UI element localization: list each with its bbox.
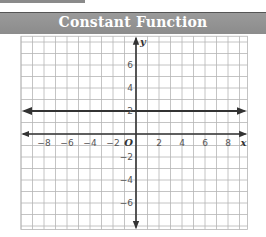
- x-tick-label: 4: [179, 138, 185, 148]
- y-tick-label: 2: [127, 106, 133, 116]
- y-tick-label: 6: [127, 60, 133, 70]
- x-tick-label: 6: [202, 138, 208, 148]
- grid-lines: [21, 36, 248, 229]
- x-axis-label: x: [240, 137, 248, 148]
- coordinate-plane: −8−6−4−22468642−2−4−6Oxy: [0, 0, 266, 237]
- x-tick-label: −4: [83, 138, 97, 148]
- x-tick-label: −6: [60, 138, 74, 148]
- x-tick-label: 2: [156, 138, 162, 148]
- y-tick-label: −6: [120, 198, 134, 208]
- x-tick-label: 8: [225, 138, 231, 148]
- y-tick-label: −2: [120, 152, 133, 162]
- y-tick-label: −4: [120, 175, 134, 185]
- y-axis-label: y: [139, 36, 147, 47]
- x-tick-label: −2: [106, 138, 119, 148]
- axes: [23, 38, 246, 227]
- x-tick-label: −8: [37, 138, 51, 148]
- y-tick-label: 4: [127, 83, 133, 93]
- origin-label: O: [124, 137, 133, 148]
